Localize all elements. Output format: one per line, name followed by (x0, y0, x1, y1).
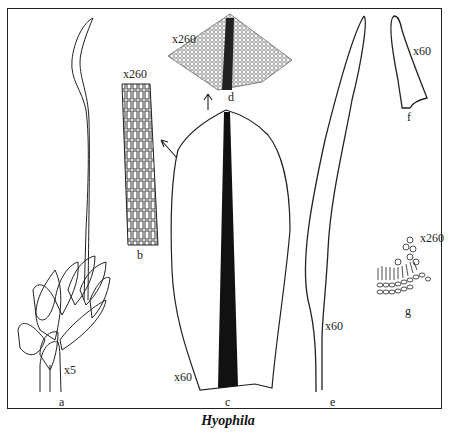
figure-g-cross-section (377, 237, 431, 294)
figure-label-d: d (228, 91, 234, 103)
arrow-b-icon (161, 140, 177, 158)
figure-label-b: b (137, 249, 143, 261)
mag-label-g: x260 (420, 232, 444, 244)
figure-c-leaf (171, 110, 290, 390)
mag-label-a: x5 (64, 364, 76, 376)
mag-label-d: x260 (172, 33, 196, 45)
mag-label-c: x60 (174, 371, 192, 383)
figure-d-apex (168, 14, 292, 90)
mag-label-f: x60 (413, 45, 431, 57)
figure-label-f: f (407, 111, 411, 123)
arrow-d-icon (204, 94, 212, 110)
figure-label-c: c (225, 396, 230, 408)
figure-f-operculum (391, 16, 427, 108)
plate-title: Hyophila (0, 413, 456, 429)
figure-label-g: g (405, 305, 411, 317)
mag-label-b: x260 (123, 68, 147, 80)
figure-a-plant (18, 18, 110, 392)
figure-e-capsule (305, 16, 365, 392)
figure-label-a: a (59, 396, 64, 408)
figure-b-cells (122, 84, 158, 245)
figure-label-e: e (330, 396, 335, 408)
mag-label-e: x60 (325, 320, 343, 332)
